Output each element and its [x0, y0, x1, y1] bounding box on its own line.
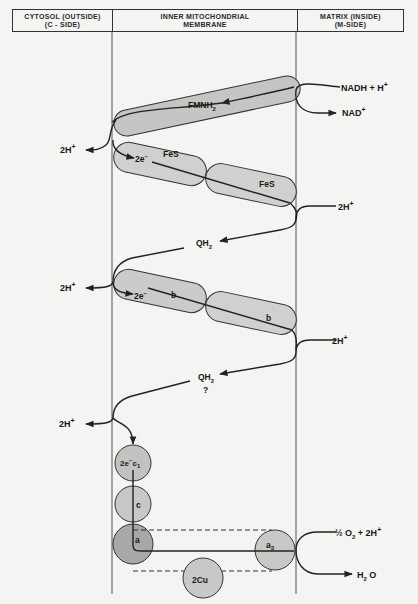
label-question: ? — [203, 385, 208, 395]
label-cyt-b-1: b — [171, 290, 176, 300]
label-copper: 2Cu — [192, 575, 208, 585]
label-qh2-2: QH2 — [198, 372, 215, 384]
qh2-arrow-2 — [220, 340, 336, 374]
label-fes-2: FeS — [259, 179, 275, 189]
label-proton-in-1: 2H+ — [338, 200, 354, 212]
label-cytochrome-a: a — [135, 535, 140, 545]
label-cyt-b-2: b — [266, 313, 271, 323]
cytochrome-b-complex — [111, 267, 299, 338]
qh2-link-2 — [113, 381, 190, 418]
fes-complex — [111, 140, 299, 210]
label-proton-in-2: 2H+ — [332, 334, 348, 346]
cytochrome-a3 — [255, 530, 295, 570]
oxygen-water-arrow — [296, 532, 352, 574]
label-cytochrome-c: c — [136, 500, 141, 510]
electron-arrow-3 — [113, 418, 133, 444]
label-proton-out-2: 2H+ — [60, 281, 76, 293]
nadh-arrow — [296, 84, 340, 113]
qh2-arrow-1 — [220, 206, 336, 241]
label-qh2-1: QH2 — [196, 238, 213, 250]
label-nad: NAD+ — [342, 106, 366, 118]
electron-transport-diagram: NADH + H+ NAD+ FMNH2 2e− FeS FeS 2H+ 2H+… — [0, 0, 418, 604]
proton-out-arrow-2 — [86, 282, 113, 288]
label-oxygen: ½ O2 + 2H+ — [335, 526, 381, 540]
label-water: H2 O — [357, 570, 376, 582]
label-nadh: NADH + H+ — [341, 81, 388, 93]
label-proton-out-3: 2H+ — [59, 417, 75, 429]
label-fes-1: FeS — [163, 149, 179, 159]
proton-out-arrow-3 — [86, 418, 113, 424]
label-proton-out-1: 2H+ — [60, 143, 76, 155]
